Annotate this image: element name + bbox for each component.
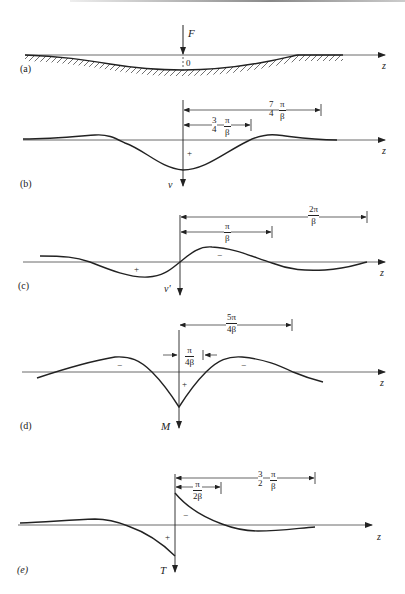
- z-axis-label-e: z: [377, 532, 381, 542]
- origin-label: 0: [186, 59, 191, 68]
- z-axis-label-b: z: [382, 146, 386, 156]
- frac-5pi-4beta: 5π 4β: [226, 313, 237, 334]
- coef-3-4: 3 4: [212, 116, 217, 134]
- z-axis-label-a: z: [382, 61, 386, 71]
- panel-label-c: (c): [18, 281, 29, 291]
- sign-minus-e: −: [183, 511, 188, 520]
- panel-c: [23, 211, 385, 295]
- panel-label-b: (b): [20, 179, 32, 189]
- sign-minus-d-left: −: [117, 361, 122, 370]
- sign-minus-d-right: −: [241, 361, 246, 370]
- panel-label-e: (e): [17, 565, 28, 575]
- sign-plus-c: +: [134, 265, 139, 274]
- panel-label-d: (d): [20, 421, 32, 431]
- shear-curve-left: [20, 519, 175, 556]
- frac-2pi-beta: 2π β: [308, 205, 319, 226]
- panel-label-a: (a): [20, 64, 31, 74]
- panel-b: [23, 100, 385, 186]
- sign-minus-c: −: [217, 251, 222, 260]
- nu-prime-label: ν': [164, 284, 171, 294]
- sign-plus-e: +: [165, 533, 170, 542]
- frac-3-4-pi-beta: π β: [224, 116, 231, 137]
- moment-curve: [37, 357, 323, 407]
- frac-3-2-pi-beta: π β: [270, 470, 277, 491]
- z-axis-label-c: z: [380, 268, 384, 278]
- panel-d: [22, 319, 385, 428]
- beam-response-figure: [0, 0, 405, 594]
- frac-pi-2beta: π 2β: [193, 480, 202, 501]
- frac-pi-beta: π β: [224, 222, 231, 243]
- shear-label: T: [160, 565, 166, 576]
- nu-label: ν: [168, 180, 172, 190]
- sign-plus-d: +: [182, 380, 187, 389]
- moment-label: M: [161, 421, 170, 432]
- z-axis-label-d: z: [380, 378, 384, 388]
- frac-pi-4beta: π 4β: [185, 346, 194, 367]
- coef-3-2: 3 2: [258, 470, 263, 488]
- coef-7-4: 7 4: [269, 100, 274, 118]
- frac-7-4-pi-beta: π β: [279, 100, 286, 121]
- panel-a: [25, 25, 385, 76]
- force-label: F: [188, 28, 195, 39]
- sign-plus-b: +: [187, 149, 192, 158]
